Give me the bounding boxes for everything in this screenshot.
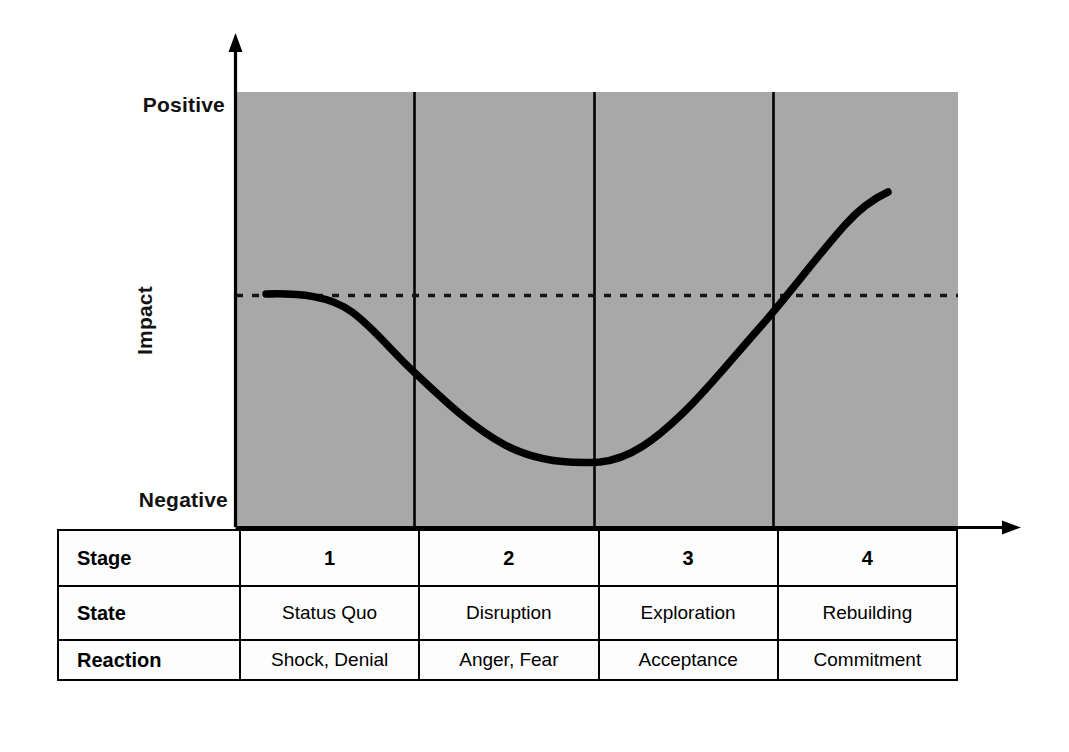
arrow-up-icon (229, 33, 243, 52)
stage-4-number: 4 (778, 530, 957, 586)
stage-1-reaction: Shock, Denial (240, 640, 419, 680)
y-axis-top-label: Positive (143, 93, 225, 117)
y-axis-bottom-label: Negative (139, 488, 228, 512)
table-row: State Status Quo Disruption Exploration … (58, 586, 957, 640)
row-header-stage: Stage (58, 530, 240, 586)
stage-table: Stage 1 2 3 4 State Status Quo Disruptio… (57, 529, 958, 681)
stage-1-state: Status Quo (240, 586, 419, 640)
stage-4-reaction: Commitment (778, 640, 957, 680)
table-row: Stage 1 2 3 4 (58, 530, 957, 586)
stage-4-state: Rebuilding (778, 586, 957, 640)
y-axis-title: Impact (133, 286, 157, 355)
table-row: Reaction Shock, Denial Anger, Fear Accep… (58, 640, 957, 680)
stage-3-state: Exploration (599, 586, 778, 640)
stage-2-number: 2 (419, 530, 598, 586)
stage-3-number: 3 (599, 530, 778, 586)
stage-2-reaction: Anger, Fear (419, 640, 598, 680)
row-header-state: State (58, 586, 240, 640)
row-header-reaction: Reaction (58, 640, 240, 680)
stage-1-number: 1 (240, 530, 419, 586)
stage-3-reaction: Acceptance (599, 640, 778, 680)
stage-2-state: Disruption (419, 586, 598, 640)
change-curve-diagram: Positive Negative Impact Stage 1 2 3 4 S… (0, 0, 1069, 752)
arrow-right-icon (1002, 521, 1021, 535)
